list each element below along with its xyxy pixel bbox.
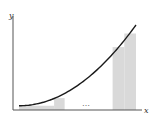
riemann-sum-diagram: y x … <box>0 0 152 118</box>
shaded-rectangles <box>19 34 136 111</box>
rectangle-right-2 <box>113 47 125 110</box>
y-axis-label: y <box>8 11 14 20</box>
rectangle-left-1 <box>54 98 65 110</box>
ellipsis: … <box>82 99 90 108</box>
x-axis-label: x <box>144 106 149 115</box>
rectangle-left-0 <box>19 106 54 110</box>
rectangle-right-3 <box>124 34 136 111</box>
